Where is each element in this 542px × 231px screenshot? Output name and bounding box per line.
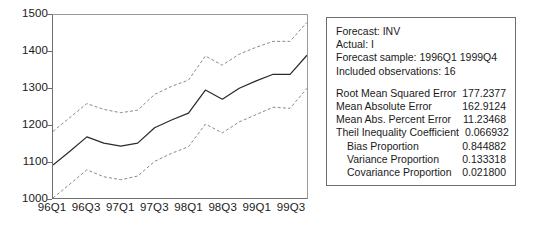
- y-axis: 100011001200130014001500: [0, 0, 48, 231]
- plot-area: [52, 14, 308, 199]
- forecast-header-block: Forecast: INVActual: IForecast sample: 1…: [327, 25, 515, 78]
- statistic-value: 11.23468: [463, 113, 506, 126]
- statistic-row: Mean Abs. Percent Error11.23468: [327, 113, 515, 126]
- y-tick-label: 1300: [2, 82, 48, 94]
- y-tick-label: 1500: [2, 8, 48, 20]
- forecast-header-line: Forecast: INV: [327, 25, 515, 38]
- statistic-label: Root Mean Squared Error: [336, 87, 456, 100]
- statistic-value: 0.021800: [462, 166, 506, 179]
- statistic-value: 0.844882: [462, 140, 506, 153]
- series-line: [53, 22, 307, 131]
- forecast-metrics-block: Root Mean Squared Error177.2377Mean Abso…: [327, 87, 515, 179]
- forecast-header-line: Included observations: 16: [327, 65, 515, 78]
- statistic-row: Root Mean Squared Error177.2377: [327, 87, 515, 100]
- statistic-value: 0.133318: [462, 153, 506, 166]
- series-line: [53, 55, 307, 165]
- x-axis: 96Q196Q397Q197Q398Q198Q399Q199Q3: [0, 202, 320, 222]
- statistic-label: Bias Proportion: [347, 140, 419, 153]
- forecast-chart: 100011001200130014001500 96Q196Q397Q197Q…: [0, 0, 320, 231]
- statistic-label: Variance Proportion: [347, 153, 439, 166]
- y-tick-mark: [47, 199, 52, 200]
- statistic-value: 162.9124: [462, 100, 506, 113]
- plot-lines: [53, 15, 307, 198]
- statistic-row: Covariance Proportion0.021800: [327, 166, 515, 179]
- forecast-evaluation-output: 100011001200130014001500 96Q196Q397Q197Q…: [0, 0, 542, 231]
- statistic-row: Theil Inequality Coefficient0.066932: [327, 126, 515, 139]
- x-tick-label: 99Q3: [271, 202, 311, 214]
- forecast-header-line: Actual: I: [327, 38, 515, 51]
- statistic-value: 177.2377: [462, 87, 506, 100]
- panel-spacer: [327, 78, 515, 87]
- forecast-statistics-panel: Forecast: INVActual: IForecast sample: 1…: [326, 17, 516, 186]
- statistic-label: Covariance Proportion: [347, 166, 451, 179]
- statistic-label: Mean Abs. Percent Error: [336, 113, 451, 126]
- forecast-header-line: Forecast sample: 1996Q1 1999Q4: [327, 51, 515, 64]
- statistic-row: Variance Proportion0.133318: [327, 153, 515, 166]
- statistic-label: Theil Inequality Coefficient: [336, 126, 459, 139]
- y-tick-label: 1400: [2, 45, 48, 57]
- statistic-row: Bias Proportion0.844882: [327, 140, 515, 153]
- y-tick-label: 1100: [2, 156, 48, 168]
- y-tick-label: 1200: [2, 119, 48, 131]
- statistic-label: Mean Absolute Error: [336, 100, 432, 113]
- statistic-row: Mean Absolute Error162.9124: [327, 100, 515, 113]
- statistic-value: 0.066932: [465, 126, 509, 139]
